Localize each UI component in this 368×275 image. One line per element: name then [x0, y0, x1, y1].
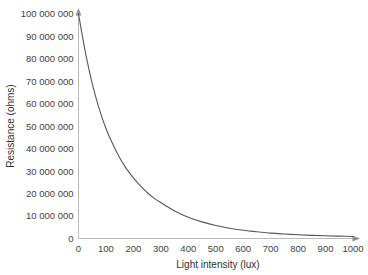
y-tick-label: 70 000 000	[26, 76, 74, 87]
chart-container: 010 000 00020 000 00030 000 00040 000 00…	[0, 0, 368, 275]
y-tick-label: 60 000 000	[26, 98, 74, 109]
y-tick-label: 0	[68, 233, 73, 244]
x-tick-label: 700	[263, 243, 279, 254]
x-tick-label: 300	[153, 243, 169, 254]
y-tick-label: 50 000 000	[26, 121, 74, 132]
y-tick-label: 20 000 000	[26, 188, 74, 199]
y-tick-label: 80 000 000	[26, 53, 74, 64]
x-tick-label: 0	[76, 243, 81, 254]
x-tick-label: 900	[318, 243, 334, 254]
x-tick-label: 500	[208, 243, 224, 254]
y-tick-label: 90 000 000	[26, 31, 74, 42]
resistance-vs-light-intensity-chart: 010 000 00020 000 00030 000 00040 000 00…	[0, 0, 368, 275]
x-tick-label: 1000	[342, 243, 363, 254]
x-axis-title: Light intensity (lux)	[176, 259, 259, 270]
y-tick-label: 40 000 000	[26, 143, 74, 154]
y-tick-label: 10 000 000	[26, 210, 74, 221]
x-tick-label: 800	[290, 243, 306, 254]
y-axis-title: Resistance (ohms)	[5, 84, 16, 167]
y-tick-label: 30 000 000	[26, 166, 74, 177]
x-tick-label: 600	[235, 243, 251, 254]
y-tick-label: 100 000 000	[21, 8, 74, 19]
x-tick-label: 400	[180, 243, 196, 254]
x-tick-label: 200	[125, 243, 141, 254]
x-tick-label: 100	[98, 243, 114, 254]
